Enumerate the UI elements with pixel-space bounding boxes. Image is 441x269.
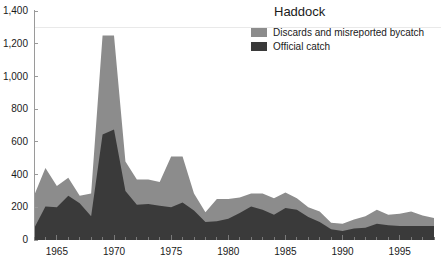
y-tick-label: 1,200 bbox=[3, 38, 28, 49]
y-tick-label: 1,000 bbox=[3, 71, 28, 82]
y-tick-label: 0 bbox=[22, 234, 28, 245]
x-tick-label: 1965 bbox=[46, 246, 69, 257]
y-tick-label: 200 bbox=[11, 201, 28, 212]
x-tick-label: 1980 bbox=[217, 246, 240, 257]
x-tick-label: 1985 bbox=[274, 246, 297, 257]
chart-title: Haddock bbox=[274, 4, 326, 19]
x-tick-label: 1970 bbox=[103, 246, 126, 257]
y-tick-label: 800 bbox=[11, 103, 28, 114]
x-tick-label: 1990 bbox=[331, 246, 354, 257]
legend-label: Official catch bbox=[273, 41, 330, 52]
y-tick-label: 600 bbox=[11, 136, 28, 147]
x-tick-label: 1975 bbox=[160, 246, 183, 257]
y-tick-label: 400 bbox=[11, 169, 28, 180]
x-tick-label: 1995 bbox=[389, 246, 412, 257]
legend-label: Discards and misreported bycatch bbox=[273, 27, 424, 38]
y-tick-label: 1,400 bbox=[3, 5, 28, 16]
legend-swatch bbox=[251, 42, 267, 51]
legend-swatch bbox=[251, 28, 267, 37]
stacked-area-chart: 02004006008001,0001,2001,400 19651970197… bbox=[0, 0, 441, 269]
chart-container: 02004006008001,0001,2001,400 19651970197… bbox=[0, 0, 441, 269]
